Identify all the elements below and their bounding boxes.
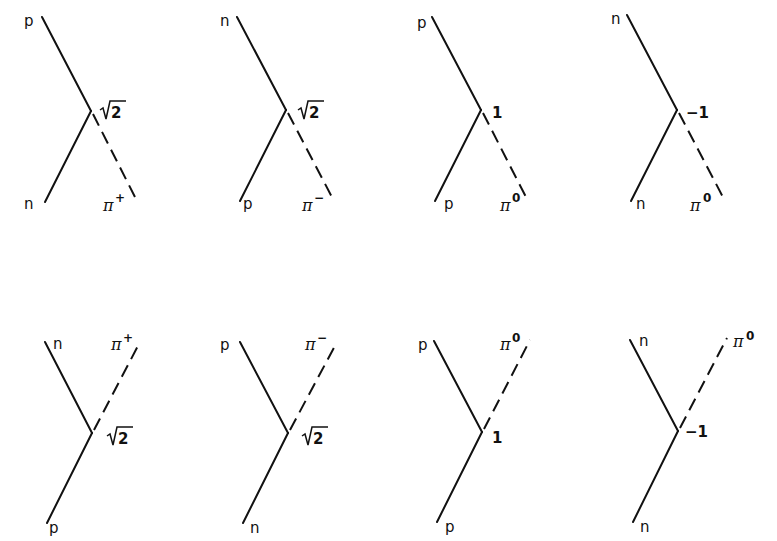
coupling-value: 1 <box>492 104 502 122</box>
label-bottom-particle: p <box>49 519 59 537</box>
pion-line <box>680 338 727 428</box>
vertex-diagram-8: n n π 0 −1 <box>630 329 754 536</box>
pion-line <box>483 113 528 201</box>
label-bottom-particle: n <box>24 195 34 213</box>
coupling-radicand: 2 <box>118 430 128 448</box>
label-pion: π <box>732 332 744 351</box>
label-bottom-particle: n <box>250 519 260 537</box>
nucleon-line-top <box>434 341 482 432</box>
label-pion-charge: 0 <box>512 331 520 345</box>
label-pion: π <box>499 335 511 354</box>
label-pion: π <box>304 335 316 354</box>
coupling-radicand: 2 <box>313 430 323 448</box>
nucleon-line-incoming <box>627 15 677 110</box>
label-pion: π <box>110 335 122 354</box>
label-pion-charge: 0 <box>746 329 754 343</box>
nucleon-line-top <box>45 342 92 433</box>
coupling-value: 1 <box>492 429 502 447</box>
nucleon-line-outgoing <box>45 111 91 202</box>
label-top-particle: n <box>639 332 649 350</box>
label-pion-charge: − <box>317 331 327 345</box>
nucleon-line-bottom <box>633 431 678 522</box>
nucleon-line-outgoing <box>631 110 677 201</box>
nucleon-line-outgoing <box>240 110 286 201</box>
label-bottom-particle: p <box>445 518 455 536</box>
label-top-particle: n <box>220 12 230 30</box>
label-bottom-particle: n <box>640 518 650 536</box>
coupling-sqrt2: 2 <box>100 101 126 122</box>
label-pion-charge: 0 <box>703 191 711 205</box>
nucleon-line-bottom <box>437 432 482 522</box>
pion-line <box>288 113 334 201</box>
vertex-diagram-1: p n π + 2 <box>24 12 138 215</box>
label-pion: π <box>689 196 701 215</box>
label-pion: π <box>301 196 313 215</box>
coupling-sqrt2: 2 <box>298 101 324 122</box>
coupling-sqrt2: 2 <box>302 427 328 448</box>
label-top-particle: n <box>53 335 63 353</box>
coupling-value: −1 <box>685 423 708 441</box>
label-top-particle: p <box>417 14 427 32</box>
nucleon-line-bottom <box>243 433 288 523</box>
nucleon-line-bottom <box>47 433 92 523</box>
label-bottom-particle: n <box>636 195 646 213</box>
label-pion: π <box>102 196 114 215</box>
coupling-sqrt2: 2 <box>107 427 133 448</box>
vertex-diagram-6: p n π − 2 <box>220 331 337 537</box>
label-top-particle: n <box>611 10 621 28</box>
pion-line <box>94 342 140 430</box>
nucleon-line-incoming <box>432 17 481 110</box>
nucleon-line-top <box>240 342 288 433</box>
coupling-radicand: 2 <box>111 104 121 122</box>
nucleon-line-top <box>630 340 678 431</box>
vertex-diagram-4: n n π 0 −1 <box>611 10 725 215</box>
nucleon-line-incoming <box>237 17 286 110</box>
pion-line <box>290 342 337 430</box>
nucleon-line-incoming <box>42 17 91 111</box>
label-top-particle: p <box>220 336 230 354</box>
vertex-diagram-5: n p π + 2 <box>45 331 140 537</box>
coupling-radicand: 2 <box>309 104 319 122</box>
vertex-diagram-3: p p π 0 1 <box>417 14 528 215</box>
label-pion-charge: − <box>314 191 324 205</box>
label-pion: π <box>499 196 511 215</box>
vertex-diagram-7: p p π 0 1 <box>418 331 530 536</box>
label-top-particle: p <box>24 12 34 30</box>
label-pion-charge: 0 <box>512 191 520 205</box>
coupling-value: −1 <box>686 104 709 122</box>
label-top-particle: p <box>418 336 428 354</box>
pion-line <box>93 114 138 203</box>
vertex-diagrams-canvas: p n π + 2 n p π − 2 p p π 0 1 <box>0 0 777 541</box>
pion-line <box>679 113 725 201</box>
label-bottom-particle: p <box>243 195 253 213</box>
label-pion-charge: + <box>115 191 125 205</box>
label-bottom-particle: p <box>444 195 454 213</box>
nucleon-line-outgoing <box>435 110 481 201</box>
vertex-diagram-2: n p π − 2 <box>220 12 334 215</box>
label-pion-charge: + <box>123 331 133 345</box>
